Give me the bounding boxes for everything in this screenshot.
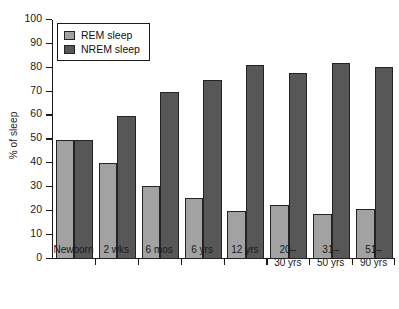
y-axis-tick: 30	[46, 186, 52, 187]
y-axis-tick: 50	[46, 138, 52, 139]
y-axis-tick-label: 20	[30, 203, 42, 215]
y-axis-tick-label: 40	[30, 155, 42, 167]
y-axis-tick-label: 80	[30, 60, 42, 72]
y-axis-tick: 0	[46, 258, 52, 259]
y-axis-tick: 20	[46, 210, 52, 211]
x-axis-tick	[138, 259, 139, 265]
bar-nrem	[117, 116, 136, 259]
x-axis-tick	[95, 259, 96, 265]
legend: REM sleep NREM sleep	[57, 23, 150, 61]
y-axis-tick: 100	[46, 19, 52, 20]
bar-nrem	[160, 92, 179, 259]
y-axis-tick-label: 10	[30, 227, 42, 239]
y-axis-tick: 60	[46, 114, 52, 115]
y-axis-tick: 90	[46, 43, 52, 44]
sleep-stage-bar-chart: % of sleep 0102030405060708090100 Newbor…	[0, 0, 399, 309]
y-axis-tick-label: 0	[36, 251, 42, 263]
bar-nrem	[74, 140, 93, 260]
legend-label-nrem: NREM sleep	[81, 43, 140, 55]
y-axis-title: % of sleep	[8, 96, 19, 176]
bar-nrem	[203, 80, 222, 259]
bar-nrem	[375, 67, 394, 259]
y-axis-tick: 70	[46, 91, 52, 92]
y-axis-tick: 80	[46, 67, 52, 68]
y-axis-tick-label: 70	[30, 84, 42, 96]
y-axis-tick-label: 30	[30, 179, 42, 191]
legend-swatch-rem-icon	[64, 31, 75, 40]
bar-nrem	[332, 63, 351, 259]
x-axis-tick	[224, 259, 225, 265]
bar-rem	[56, 140, 75, 260]
x-axis-label: 51– 90 yrs	[348, 243, 399, 269]
legend-label-rem: REM sleep	[81, 29, 132, 41]
bar-nrem	[289, 73, 308, 259]
y-axis-line	[52, 20, 53, 259]
bar-nrem	[246, 65, 265, 259]
legend-item-nrem: NREM sleep	[64, 42, 140, 56]
y-axis-tick: 40	[46, 162, 52, 163]
x-axis-tick	[181, 259, 182, 265]
y-axis-tick: 10	[46, 234, 52, 235]
y-axis-tick-label: 90	[30, 36, 42, 48]
y-axis-tick-label: 50	[30, 131, 42, 143]
y-axis-tick-label: 100	[24, 12, 42, 24]
legend-item-rem: REM sleep	[64, 28, 140, 42]
y-axis-tick-label: 60	[30, 107, 42, 119]
legend-swatch-nrem-icon	[64, 45, 75, 54]
